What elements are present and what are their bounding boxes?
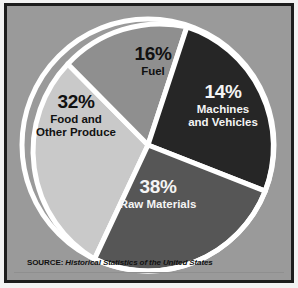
- source-title: Historical Statistics of the United Stat…: [65, 258, 212, 267]
- source-prefix: SOURCE:: [27, 258, 63, 267]
- source-note: SOURCE: Historical Statistics of the Uni…: [27, 258, 284, 267]
- pie-chart-figure: 16% Fuel 14% Machines and Vehicles 32% F…: [0, 0, 298, 288]
- pie-chart-plot: [0, 0, 298, 288]
- bottom-divider: [14, 272, 284, 273]
